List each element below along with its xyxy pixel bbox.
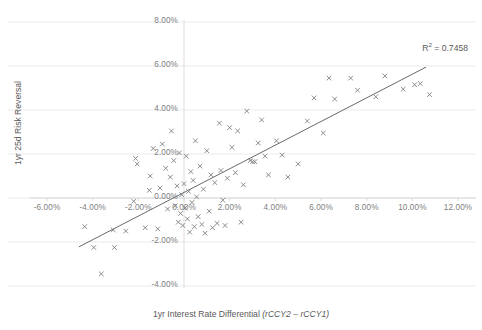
x-axis-tick-label: -4.00% <box>69 203 117 212</box>
scatter-point <box>213 180 218 185</box>
scatter-point <box>99 272 104 277</box>
scatter-point <box>184 154 189 159</box>
x-axis-tick-label: 6.00% <box>297 203 345 212</box>
scatter-point <box>112 245 117 250</box>
scatter-point <box>383 74 388 79</box>
scatter-chart: -4.00%-2.00%0.00%2.00%4.00%6.00%8.00% -6… <box>0 0 482 330</box>
scatter-point <box>401 87 406 92</box>
scatter-point <box>92 245 97 250</box>
scatter-point <box>233 170 238 175</box>
scatter-point <box>355 88 360 93</box>
y-axis-tick-label: 8.00% <box>122 16 178 25</box>
scatter-point <box>200 222 205 227</box>
scatter-point <box>327 76 332 81</box>
scatter-point <box>176 220 181 225</box>
scatter-point <box>187 230 192 235</box>
y-axis-tick-label: -2.00% <box>122 236 178 245</box>
x-axis-tick-label: 2.00% <box>206 203 254 212</box>
scatter-point <box>223 223 228 228</box>
scatter-point <box>196 214 201 219</box>
scatter-point <box>332 97 337 102</box>
scatter-point <box>193 139 198 144</box>
scatter-point <box>175 184 180 189</box>
scatter-point <box>256 141 261 146</box>
scatter-point <box>263 154 268 159</box>
scatter-point <box>194 195 199 200</box>
scatter-point <box>169 129 174 134</box>
scatter-point <box>191 178 196 183</box>
scatter-point <box>82 224 87 229</box>
scatter-point <box>198 164 203 169</box>
scatter-point <box>185 217 190 222</box>
scatter-point <box>286 175 291 180</box>
scatter-point <box>201 187 206 192</box>
scatter-point <box>412 82 417 87</box>
scatter-point <box>155 227 160 232</box>
scatter-point <box>259 118 264 123</box>
scatter-point <box>210 225 215 230</box>
x-axis-title-text: 1yr Interest Rate Differential <box>153 309 260 319</box>
scatter-point <box>219 168 224 173</box>
scatter-point <box>143 225 148 230</box>
y-axis-title: 1yr 25d Risk Reversal <box>13 43 23 203</box>
x-axis-tick-label: 8.00% <box>343 203 391 212</box>
scatter-point <box>225 176 230 181</box>
scatter-point <box>274 139 279 144</box>
scatter-point <box>209 173 214 178</box>
scatter-point <box>135 162 140 167</box>
scatter-point <box>280 153 285 158</box>
scatter-point <box>266 173 271 178</box>
scatter-point <box>160 142 165 147</box>
scatter-point <box>227 125 232 130</box>
y-axis-tick-label: 0.00% <box>122 192 178 201</box>
scatter-point <box>230 145 235 150</box>
scatter-point <box>244 109 249 114</box>
scatter-point <box>296 162 301 167</box>
r-squared-exponent: 2 <box>428 41 431 48</box>
r-squared-text: R2 = 0.7458 <box>422 43 468 53</box>
scatter-point <box>427 92 432 97</box>
x-axis-title: 1yr Interest Rate Differential (rCCY2 – … <box>0 309 482 319</box>
chart-canvas <box>0 0 482 330</box>
scatter-point <box>235 129 240 134</box>
scatter-point <box>252 159 257 164</box>
y-axis-tick-label: 4.00% <box>122 104 178 113</box>
scatter-point <box>189 169 194 174</box>
scatter-point <box>215 221 220 226</box>
scatter-point <box>312 96 317 101</box>
scatter-point <box>241 183 246 188</box>
scatter-point <box>217 121 222 126</box>
scatter-point <box>123 229 128 234</box>
scatter-point <box>418 81 423 86</box>
x-axis-title-variables: (rCCY2 – rCCY1) <box>262 309 329 319</box>
x-axis-tick-label: -2.00% <box>114 203 162 212</box>
y-axis-tick-label: -4.00% <box>122 280 178 289</box>
scatter-point <box>158 186 163 191</box>
scatter-point <box>163 166 168 171</box>
scatter-point <box>205 148 210 153</box>
y-axis-tick-label: 2.00% <box>122 148 178 157</box>
scatter-point <box>239 220 244 225</box>
r-squared-annotation: R2 = 0.7458 <box>422 41 468 53</box>
scatter-point <box>221 198 226 203</box>
scatter-point <box>203 231 208 236</box>
scatter-point <box>148 174 153 179</box>
x-axis-tick-label: 12.00% <box>434 203 482 212</box>
scatter-point <box>348 76 353 81</box>
x-axis-tick-label: 0.00% <box>160 203 208 212</box>
scatter-point <box>171 158 176 163</box>
plot-area <box>0 0 482 330</box>
scatter-point <box>181 223 186 228</box>
y-axis-tick-label: 6.00% <box>122 60 178 69</box>
scatter-point <box>374 95 379 100</box>
scatter-point <box>192 224 197 229</box>
scatter-point <box>168 175 173 180</box>
scatter-point <box>305 119 310 124</box>
x-axis-tick-label: 4.00% <box>251 203 299 212</box>
scatter-point <box>321 131 326 136</box>
x-axis-tick-label: 10.00% <box>388 203 436 212</box>
x-axis-tick-label: -6.00% <box>23 203 71 212</box>
